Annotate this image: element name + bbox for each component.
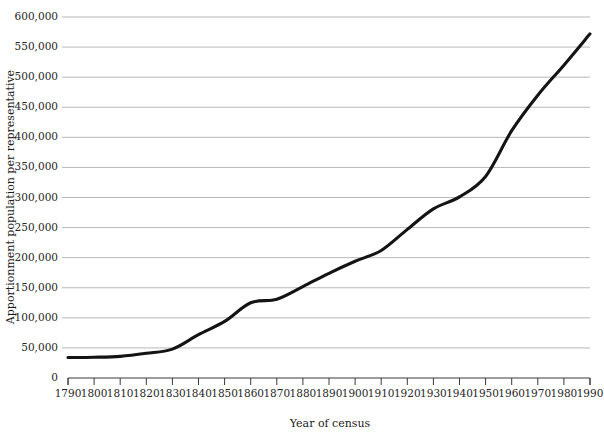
x-tick-label: 1880 — [290, 387, 317, 399]
y-axis-title: Apportionment population per representat… — [4, 70, 17, 325]
x-tick-label: 1990 — [577, 387, 604, 399]
x-tick-label: 1860 — [237, 387, 264, 399]
y-tick-label: 600,000 — [15, 10, 58, 22]
x-tick-label: 1970 — [524, 387, 551, 399]
x-tick-labels: 1790180018101820183018401850186018701880… — [55, 387, 604, 399]
x-tick-label: 1910 — [368, 387, 395, 399]
y-tick-label: 350,000 — [15, 160, 58, 172]
y-tick-label: 250,000 — [15, 221, 58, 233]
y-tick-label: 500,000 — [15, 70, 58, 82]
x-tick-label: 1850 — [211, 387, 238, 399]
x-tick-label: 1940 — [446, 387, 473, 399]
chart-container: 050,000100,000150,000200,000250,000300,0… — [0, 0, 604, 434]
gridlines — [62, 17, 590, 348]
x-axis-title: Year of census — [289, 417, 371, 430]
y-tick-labels: 050,000100,000150,000200,000250,000300,0… — [15, 10, 58, 383]
x-tick-label: 1870 — [263, 387, 290, 399]
y-tick-label: 100,000 — [15, 311, 58, 323]
y-tick-label: 50,000 — [21, 341, 58, 353]
x-tick-label: 1810 — [107, 387, 134, 399]
y-tick-label: 400,000 — [15, 130, 58, 142]
y-tick-label: 0 — [51, 371, 58, 383]
x-tick-label: 1830 — [159, 387, 186, 399]
x-tick-label: 1820 — [133, 387, 160, 399]
x-tick-label: 1790 — [55, 387, 82, 399]
x-tick-label: 1890 — [316, 387, 343, 399]
x-axis — [68, 378, 590, 385]
y-tick-label: 550,000 — [15, 40, 58, 52]
y-tick-label: 300,000 — [15, 191, 58, 203]
x-tick-label: 1800 — [81, 387, 108, 399]
data-line-apportionment — [68, 34, 590, 358]
x-tick-label: 1840 — [185, 387, 212, 399]
x-tick-label: 1950 — [472, 387, 499, 399]
x-tick-label: 1960 — [498, 387, 525, 399]
y-tick-label: 450,000 — [15, 100, 58, 112]
line-chart: 050,000100,000150,000200,000250,000300,0… — [0, 0, 604, 434]
x-tick-label: 1900 — [342, 387, 369, 399]
x-tick-label: 1920 — [394, 387, 421, 399]
data-series-line — [68, 34, 590, 358]
x-tick-label: 1930 — [420, 387, 447, 399]
y-tick-label: 200,000 — [15, 251, 58, 263]
x-tick-label: 1980 — [551, 387, 578, 399]
y-tick-label: 150,000 — [15, 281, 58, 293]
